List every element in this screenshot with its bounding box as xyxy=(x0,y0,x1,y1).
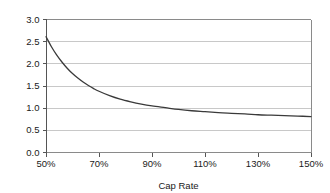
x-tick-label-130%: 130% xyxy=(246,158,271,169)
y-tick-label-2.5: 2.5 xyxy=(26,36,39,47)
y-tick-label-3.0: 3.0 xyxy=(26,14,39,25)
y-tick-label-1.5: 1.5 xyxy=(26,80,39,91)
x-tick-label-90%: 90% xyxy=(142,158,162,169)
x-tick-label-150%: 150% xyxy=(299,158,324,169)
y-tick-label-0.5: 0.5 xyxy=(26,124,39,135)
y-tick-label-1.0: 1.0 xyxy=(26,102,39,113)
y-tick-label-0.0: 0.0 xyxy=(26,147,39,158)
y-tick-label-2.0: 2.0 xyxy=(26,58,39,69)
x-tick-label-110%: 110% xyxy=(193,158,217,169)
chart-canvas: 50%70%90%110%130%150% 0.00.51.01.52.02.5… xyxy=(0,0,330,193)
x-tick-label-50%: 50% xyxy=(36,158,56,169)
x-tick-label-70%: 70% xyxy=(89,158,109,169)
x-axis-title: Cap Rate xyxy=(158,180,198,191)
cap-rate-line-chart: 50%70%90%110%130%150% 0.00.51.01.52.02.5… xyxy=(0,0,330,193)
